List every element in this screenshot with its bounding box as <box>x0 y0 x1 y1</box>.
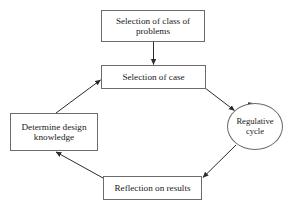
node-label: Reflection on results <box>112 183 192 193</box>
node-label: Regulative cycle <box>234 117 275 137</box>
node-determine-design-knowledge[interactable]: Determine design knowledge <box>10 113 98 151</box>
edge-case-to-cycle <box>205 88 235 111</box>
node-label: Selection of class of problems <box>114 16 192 37</box>
node-selection-of-class-of-problems[interactable]: Selection of class of problems <box>101 10 205 42</box>
node-reflection-on-results[interactable]: Reflection on results <box>103 176 202 200</box>
node-label: Selection of case <box>120 72 186 82</box>
diagram-canvas: Selection of class of problems Selection… <box>0 0 291 208</box>
node-selection-of-case[interactable]: Selection of case <box>101 65 206 89</box>
edge-knowledge-to-case <box>56 80 101 113</box>
node-label: Determine design knowledge <box>19 122 88 143</box>
node-regulative-cycle[interactable]: Regulative cycle <box>227 103 283 150</box>
edge-reflection-to-knowledge <box>56 152 103 178</box>
edge-cycle-to-reflection <box>203 145 236 178</box>
